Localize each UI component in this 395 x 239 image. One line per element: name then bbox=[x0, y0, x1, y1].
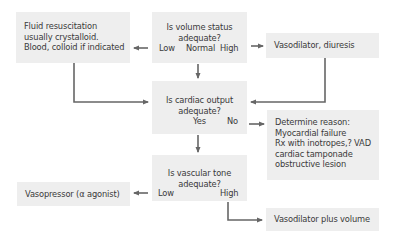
arrow-vasodilator-to-cardiac bbox=[251, 58, 325, 102]
connector-arrows bbox=[0, 0, 395, 239]
arrow-high-to-vasodilator-volume bbox=[228, 202, 262, 220]
arrow-fluid-to-cardiac bbox=[74, 63, 148, 102]
